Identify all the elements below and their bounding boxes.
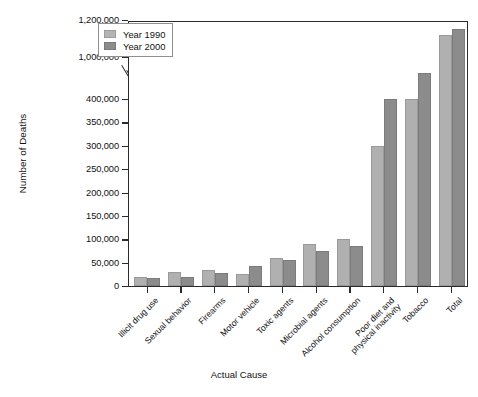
bar-group	[270, 21, 296, 286]
bar	[371, 146, 384, 286]
bar	[337, 239, 350, 286]
x-tick-mark	[248, 287, 249, 293]
x-tick-mark	[417, 287, 418, 293]
x-tick-mark	[282, 287, 283, 293]
bar	[316, 251, 329, 286]
bar	[303, 244, 316, 286]
bar-group	[371, 21, 397, 286]
bar-group	[405, 21, 431, 286]
bar	[181, 277, 194, 286]
bar-group	[236, 21, 262, 286]
x-tick-mark	[316, 287, 317, 293]
bar-group	[439, 21, 465, 286]
y-tick-label: 100,000	[0, 234, 128, 245]
y-tick-label: 300,000	[0, 141, 128, 152]
bar	[439, 35, 452, 286]
x-tick-mark	[180, 287, 181, 293]
bar	[134, 277, 147, 286]
bar-chart: Number of Deaths 050,000100,000150,00020…	[0, 0, 478, 397]
y-tick-label: 50,000	[0, 258, 128, 269]
bar	[270, 258, 283, 286]
bar	[418, 73, 431, 286]
bar-group	[134, 21, 160, 286]
legend-swatch-icon-1990	[104, 30, 116, 38]
bar-group	[202, 21, 228, 286]
legend-swatch-icon-2000	[104, 42, 116, 50]
y-tick-label: 150,000	[0, 211, 128, 222]
bar-group	[303, 21, 329, 286]
y-tick-label: 400,000	[0, 94, 128, 105]
legend-item-year-1990: Year 1990	[104, 28, 165, 40]
bar	[405, 99, 418, 286]
bar	[168, 272, 181, 286]
x-tick-mark	[349, 287, 350, 293]
bar	[384, 99, 397, 286]
legend-item-year-2000: Year 2000	[104, 40, 165, 52]
bar	[147, 278, 160, 286]
bar-group	[168, 21, 194, 286]
bar	[215, 273, 228, 286]
x-tick-mark	[214, 287, 215, 293]
bar	[283, 260, 296, 286]
y-tick-label: 0	[0, 281, 128, 292]
legend-label-1990: Year 1990	[123, 29, 165, 40]
x-tick-mark	[147, 287, 148, 293]
y-tick-label: 350,000	[0, 117, 128, 128]
bar	[249, 266, 262, 286]
bar	[350, 246, 363, 286]
x-tick-mark	[383, 287, 384, 293]
legend-label-2000: Year 2000	[123, 41, 165, 52]
x-tick-mark	[451, 287, 452, 293]
bar-series-container	[130, 21, 468, 286]
y-tick-label: 200,000	[0, 188, 128, 199]
bar	[202, 270, 215, 286]
legend: Year 1990 Year 2000	[98, 23, 173, 57]
x-axis-title: Actual Cause	[0, 369, 478, 380]
y-tick-label: 250,000	[0, 164, 128, 175]
bar	[452, 29, 465, 286]
bar-group	[337, 21, 363, 286]
bar	[236, 274, 249, 286]
